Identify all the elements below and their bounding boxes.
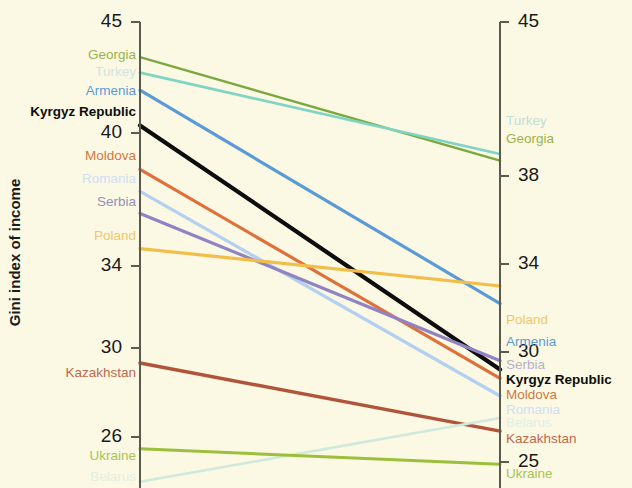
right-series-label-turkey: Turkey bbox=[506, 113, 547, 128]
slope-chart: Gini index of income Gini index of consu… bbox=[0, 0, 632, 488]
left-series-label-moldova: Moldova bbox=[85, 148, 136, 163]
left-series-label-kazakhstan: Kazakhstan bbox=[65, 365, 136, 380]
series-line bbox=[140, 249, 500, 286]
left-series-label-poland: Poland bbox=[94, 228, 136, 243]
left-series-label-ukraine: Ukraine bbox=[89, 448, 136, 463]
left-series-label-serbia: Serbia bbox=[97, 194, 136, 209]
right-tick-label: 34 bbox=[518, 252, 558, 274]
right-series-label-armenia: Armenia bbox=[506, 334, 556, 349]
left-tick-label: 45 bbox=[82, 10, 122, 32]
series-line bbox=[140, 73, 500, 154]
series-line bbox=[140, 363, 500, 431]
left-tick-label: 34 bbox=[82, 254, 122, 276]
right-series-label-kyrgyz-republic: Kyrgyz Republic bbox=[506, 372, 612, 387]
left-series-label-georgia: Georgia bbox=[88, 47, 136, 62]
series-lines bbox=[140, 57, 500, 482]
left-series-label-armenia: Armenia bbox=[86, 83, 136, 98]
right-tick-label: 38 bbox=[518, 164, 558, 186]
left-tick-label: 26 bbox=[82, 425, 122, 447]
series-line bbox=[140, 57, 500, 160]
right-series-label-georgia: Georgia bbox=[506, 131, 554, 146]
series-line bbox=[140, 125, 500, 369]
left-axis-title: Gini index of income bbox=[6, 153, 23, 353]
right-series-label-poland: Poland bbox=[506, 312, 548, 327]
series-line bbox=[140, 213, 500, 360]
left-tick-label: 30 bbox=[82, 336, 122, 358]
right-series-label-serbia: Serbia bbox=[506, 357, 545, 372]
series-line bbox=[140, 191, 500, 396]
right-series-label-kazakhstan: Kazakhstan bbox=[506, 431, 577, 446]
left-series-label-turkey: Turkey bbox=[95, 64, 136, 79]
right-series-label-ukraine: Ukraine bbox=[506, 466, 553, 481]
left-series-label-romania: Romania bbox=[82, 171, 136, 186]
left-tick-label: 40 bbox=[82, 121, 122, 143]
right-tick-label: 45 bbox=[518, 10, 558, 32]
series-line bbox=[140, 90, 500, 303]
left-series-label-kyrgyz-republic: Kyrgyz Republic bbox=[30, 104, 136, 119]
left-series-label-belarus: Belarus bbox=[90, 469, 136, 484]
series-line bbox=[140, 169, 500, 378]
right-series-label-belarus: Belarus bbox=[506, 415, 552, 430]
right-series-label-moldova: Moldova bbox=[506, 387, 557, 402]
